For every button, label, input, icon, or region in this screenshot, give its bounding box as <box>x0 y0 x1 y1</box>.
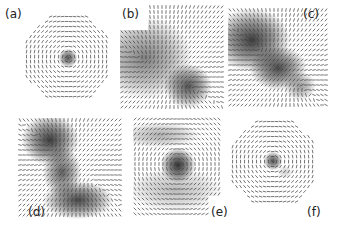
panel-label-a: (a) <box>5 8 22 20</box>
panel-c <box>214 8 328 107</box>
vector-field-figure: (a) (b) (c) (d) (e) (f) <box>0 0 349 227</box>
panel-label-b: (b) <box>122 8 139 20</box>
density-map <box>97 16 212 108</box>
vector-arrows <box>232 121 314 203</box>
panel-label-c: (c) <box>303 8 319 20</box>
panel-f <box>232 121 314 203</box>
panel-a <box>26 16 108 98</box>
panel-d <box>18 114 122 219</box>
figure-canvas <box>0 0 349 227</box>
panel-label-f: (f) <box>307 206 321 218</box>
vector-arrows <box>26 16 108 98</box>
panel-label-d: (d) <box>28 206 45 218</box>
density-map <box>214 8 316 100</box>
panel-b <box>97 5 224 109</box>
panel-label-e: (e) <box>211 206 228 218</box>
panel-e <box>120 118 223 215</box>
